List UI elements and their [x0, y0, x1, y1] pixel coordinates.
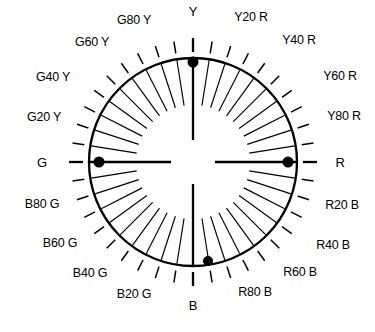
label-Y80R: Y80 R — [327, 110, 361, 123]
outer-tick — [94, 90, 104, 97]
label-Y40R: Y40 R — [282, 34, 316, 47]
colour-circle-graphic — [0, 0, 375, 332]
outer-tick — [271, 240, 279, 248]
outer-tick — [77, 124, 88, 128]
inner-radial-tick — [146, 213, 167, 254]
inner-radial-tick — [91, 171, 136, 178]
inner-radial-tick — [95, 130, 139, 144]
inner-radial-tick — [244, 188, 285, 209]
outer-tick — [243, 260, 248, 271]
inner-radial-tick — [177, 218, 184, 263]
outer-tick — [94, 227, 104, 234]
inner-radial-tick — [120, 89, 153, 122]
label-G80Y: G80 Y — [117, 14, 151, 27]
label-G: G — [37, 156, 47, 169]
outer-tick — [138, 260, 143, 271]
inner-radial-tick — [219, 70, 240, 111]
outer-tick — [291, 212, 302, 217]
outer-tick — [302, 179, 314, 181]
hue-marker-y — [188, 57, 199, 68]
inner-radial-tick — [132, 79, 159, 116]
outer-tick — [84, 107, 95, 112]
inner-radial-tick — [120, 202, 153, 235]
outer-tick — [107, 76, 115, 84]
outer-tick — [138, 53, 143, 64]
outer-tick — [210, 42, 212, 54]
inner-radial-tick — [101, 188, 142, 209]
inner-radial-tick — [249, 171, 294, 178]
label-B40G: B40 G — [73, 267, 107, 280]
inner-radial-tick — [177, 60, 184, 105]
label-Y60R: Y60 R — [323, 70, 357, 83]
outer-tick — [291, 107, 302, 112]
label-G40Y: G40 Y — [36, 71, 70, 84]
inner-radial-tick — [146, 70, 167, 111]
hue-marker-b — [203, 256, 213, 266]
outer-tick — [302, 143, 314, 145]
label-B60G: B60 G — [43, 237, 77, 250]
outer-tick — [210, 271, 212, 283]
inner-radial-tick — [161, 216, 175, 260]
outer-tick — [155, 46, 159, 57]
label-G20Y: G20 Y — [27, 111, 61, 124]
outer-tick — [77, 196, 88, 200]
outer-tick — [121, 63, 128, 73]
outer-tick — [282, 227, 292, 234]
outer-tick — [282, 90, 292, 97]
inner-radial-tick — [202, 60, 209, 105]
label-R60B: R60 B — [283, 266, 317, 279]
outer-tick — [107, 240, 115, 248]
inner-radial-tick — [239, 196, 276, 223]
outer-tick — [174, 271, 176, 283]
outer-tick — [84, 212, 95, 217]
label-R20B: R20 B — [325, 199, 359, 212]
inner-radial-tick — [91, 146, 136, 153]
label-R80B: R80 B — [238, 286, 272, 299]
inner-radial-tick — [249, 146, 294, 153]
inner-radial-tick — [227, 79, 254, 116]
inner-radial-tick — [227, 208, 254, 245]
inner-radial-tick — [101, 115, 142, 136]
inner-radial-tick — [161, 64, 175, 108]
outer-tick — [258, 63, 265, 73]
outer-tick — [258, 251, 265, 261]
label-G60Y: G60 Y — [75, 36, 109, 49]
inner-radial-tick — [110, 196, 147, 223]
outer-tick — [298, 196, 309, 200]
outer-tick — [174, 42, 176, 54]
inner-radial-tick — [247, 180, 291, 194]
hue-marker-r — [283, 157, 294, 168]
outer-tick — [155, 267, 159, 278]
outer-tick — [227, 46, 231, 57]
label-Y: Y — [189, 5, 197, 18]
inner-radial-tick — [95, 180, 139, 194]
inner-radial-tick — [239, 101, 276, 128]
label-R: R — [335, 156, 344, 169]
outer-tick — [121, 251, 128, 261]
label-B80G: B80 G — [25, 198, 59, 211]
outer-tick — [243, 53, 248, 64]
label-B20G: B20 G — [117, 288, 151, 301]
label-B: B — [189, 299, 197, 312]
label-R40B: R40 B — [316, 239, 350, 252]
inner-radial-tick — [233, 89, 266, 122]
outer-tick — [73, 179, 85, 181]
inner-radial-tick — [244, 115, 285, 136]
outer-tick — [227, 267, 231, 278]
inner-radial-tick — [110, 101, 147, 128]
hue-marker-g — [94, 157, 105, 168]
inner-radial-tick — [233, 202, 266, 235]
ncs-colour-circle-diagram: YY20 RY40 RY60 RY80 RRR20 BR40 BR60 BR80… — [0, 0, 375, 332]
outer-tick — [73, 143, 85, 145]
inner-radial-tick — [211, 216, 225, 260]
label-Y20R: Y20 R — [234, 11, 268, 24]
outer-tick — [271, 76, 279, 84]
inner-radial-tick — [247, 130, 291, 144]
inner-radial-tick — [219, 213, 240, 254]
outer-tick — [298, 124, 309, 128]
inner-radial-tick — [211, 64, 225, 108]
inner-radial-tick — [132, 208, 159, 245]
